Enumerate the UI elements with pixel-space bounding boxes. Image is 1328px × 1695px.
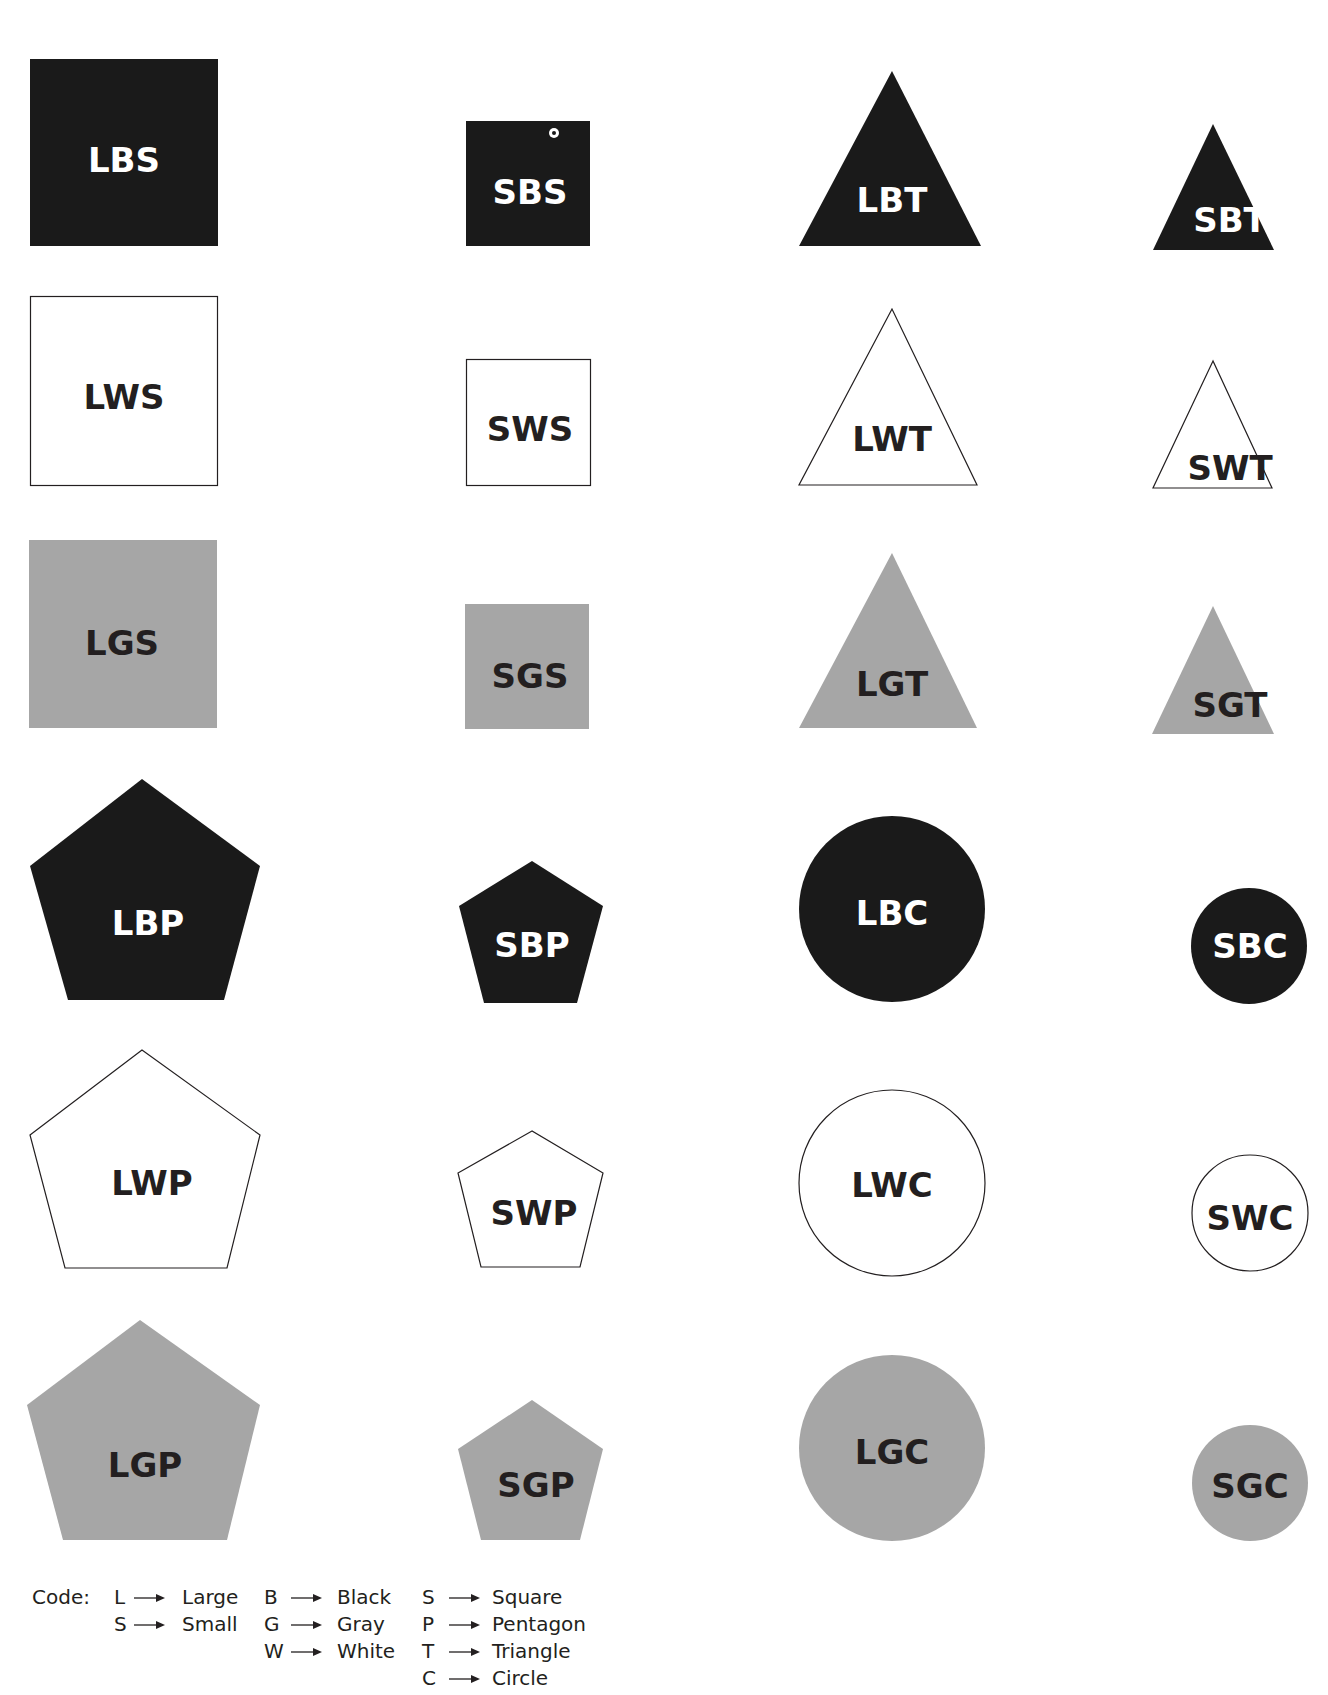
shape-label: LWP <box>111 1163 192 1203</box>
legend-value: Small <box>182 1611 238 1638</box>
shape-sws: SWS <box>467 360 591 486</box>
shape-label: SGS <box>492 656 569 696</box>
legend-key: G <box>264 1611 280 1638</box>
shape-lgt: LGT <box>799 553 977 728</box>
legend-value: Circle <box>492 1665 548 1692</box>
shape-lgc: LGC <box>799 1355 985 1541</box>
shape-sbc: SBC <box>1191 888 1307 1004</box>
shape-label: LGP <box>108 1445 183 1485</box>
shape-label: SBS <box>493 172 568 212</box>
shape-label: LGT <box>856 664 929 704</box>
legend-key: L <box>114 1584 125 1611</box>
legend-value: Square <box>492 1584 562 1611</box>
arrow-right-icon <box>289 1638 323 1665</box>
shape-sbt: SBT <box>1153 124 1274 250</box>
shape-label: SWC <box>1207 1198 1294 1238</box>
arrow-right-icon <box>132 1611 166 1638</box>
shape-sgp: SGP <box>458 1400 603 1540</box>
arrow-right-icon <box>289 1584 323 1611</box>
shape-lwt: LWT <box>799 309 977 485</box>
shape-label: SWS <box>487 409 573 449</box>
shape-label: LGC <box>855 1432 930 1472</box>
shape-label: LBC <box>856 893 929 933</box>
shape-lbs: LBS <box>30 59 218 246</box>
shape-label: LBP <box>112 903 185 943</box>
shape-lgs: LGS <box>29 540 217 728</box>
shape-lgp: LGP <box>27 1320 260 1540</box>
shape-label: LGS <box>85 623 159 663</box>
shape-sbp: SBP <box>459 861 603 1003</box>
legend-value: Large <box>182 1584 238 1611</box>
shape-label: LWS <box>83 377 164 417</box>
legend-value: Triangle <box>492 1638 571 1665</box>
shape-lbp: LBP <box>30 779 260 1000</box>
legend-key: W <box>264 1638 284 1665</box>
shape-grid: LBS SBS LBT SBT LWS SWS LWT SWT LGS SGS <box>0 0 1328 1695</box>
legend-value: Pentagon <box>492 1611 586 1638</box>
shape-label: SGP <box>497 1465 574 1505</box>
shape-swc: SWC <box>1192 1155 1308 1271</box>
shape-sgc: SGC <box>1192 1425 1308 1541</box>
legend-title: Code: <box>32 1584 90 1611</box>
arrow-right-icon <box>447 1638 481 1665</box>
legend-key: B <box>264 1584 278 1611</box>
legend-key: P <box>422 1611 434 1638</box>
shape-label: SBT <box>1193 200 1267 240</box>
shape-label: LWC <box>851 1165 932 1205</box>
legend-value: Black <box>337 1584 391 1611</box>
shape-sbs: SBS <box>466 121 590 246</box>
shape-label: SBC <box>1212 926 1287 966</box>
shape-sgs: SGS <box>465 604 589 729</box>
shape-label: LBS <box>88 140 160 180</box>
shape-label: SGC <box>1211 1466 1288 1506</box>
shape-lws: LWS <box>31 297 218 486</box>
shape-lbc: LBC <box>799 816 985 1002</box>
legend-key: T <box>422 1638 434 1665</box>
shape-label: SGT <box>1193 685 1269 725</box>
shape-label: SWP <box>491 1193 578 1233</box>
shape-lbt: LBT <box>799 71 981 246</box>
shape-label: SWT <box>1187 448 1273 488</box>
arrow-right-icon <box>447 1665 481 1692</box>
arrow-right-icon <box>132 1584 166 1611</box>
shape-swp: SWP <box>458 1131 603 1267</box>
legend-key: S <box>422 1584 435 1611</box>
legend-value: Gray <box>337 1611 385 1638</box>
shape-sgt: SGT <box>1152 606 1274 734</box>
arrow-right-icon <box>289 1611 323 1638</box>
legend-key: C <box>422 1665 436 1692</box>
arrow-right-icon <box>447 1584 481 1611</box>
arrow-right-icon <box>447 1611 481 1638</box>
shape-label: LBT <box>857 180 929 220</box>
shape-label: LWT <box>852 419 933 459</box>
shape-swt: SWT <box>1153 361 1273 488</box>
shape-lwc: LWC <box>799 1090 985 1276</box>
shape-lwp: LWP <box>30 1050 260 1268</box>
legend-value: White <box>337 1638 395 1665</box>
legend-key: S <box>114 1611 127 1638</box>
shape-label: SBP <box>494 925 569 965</box>
